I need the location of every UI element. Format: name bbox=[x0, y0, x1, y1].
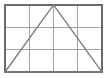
figure-container bbox=[0, 0, 107, 78]
grid-triangle-figure bbox=[0, 0, 107, 78]
